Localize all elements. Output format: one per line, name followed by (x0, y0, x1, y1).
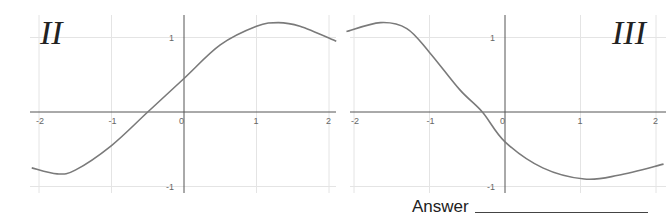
x-tick-label: 0 (179, 116, 184, 126)
y-tick-label: -1 (487, 182, 495, 192)
x-tick-label: 0 (500, 116, 505, 126)
x-tick-label: 1 (254, 116, 259, 126)
x-tick-label: 1 (578, 116, 583, 126)
x-tick-label: 2 (653, 116, 658, 126)
x-tick-label: -1 (427, 116, 435, 126)
y-tick-label: 1 (490, 33, 495, 43)
answer-blank[interactable] (475, 212, 648, 213)
x-tick-label: -2 (36, 116, 44, 126)
x-tick-label: -1 (109, 116, 117, 126)
graph-worksheet: -2-1012-11-2-1012-11 II III Answer (0, 0, 666, 218)
y-tick-label: 1 (169, 33, 174, 43)
y-tick-label: -1 (166, 182, 174, 192)
x-tick-label: -2 (351, 116, 359, 126)
answer-label: Answer (412, 197, 469, 217)
graph-label-iii: III (612, 14, 646, 52)
graphs: -2-1012-11-2-1012-11 (0, 0, 666, 218)
graph-label-ii: II (40, 14, 63, 52)
x-tick-label: 2 (326, 116, 331, 126)
